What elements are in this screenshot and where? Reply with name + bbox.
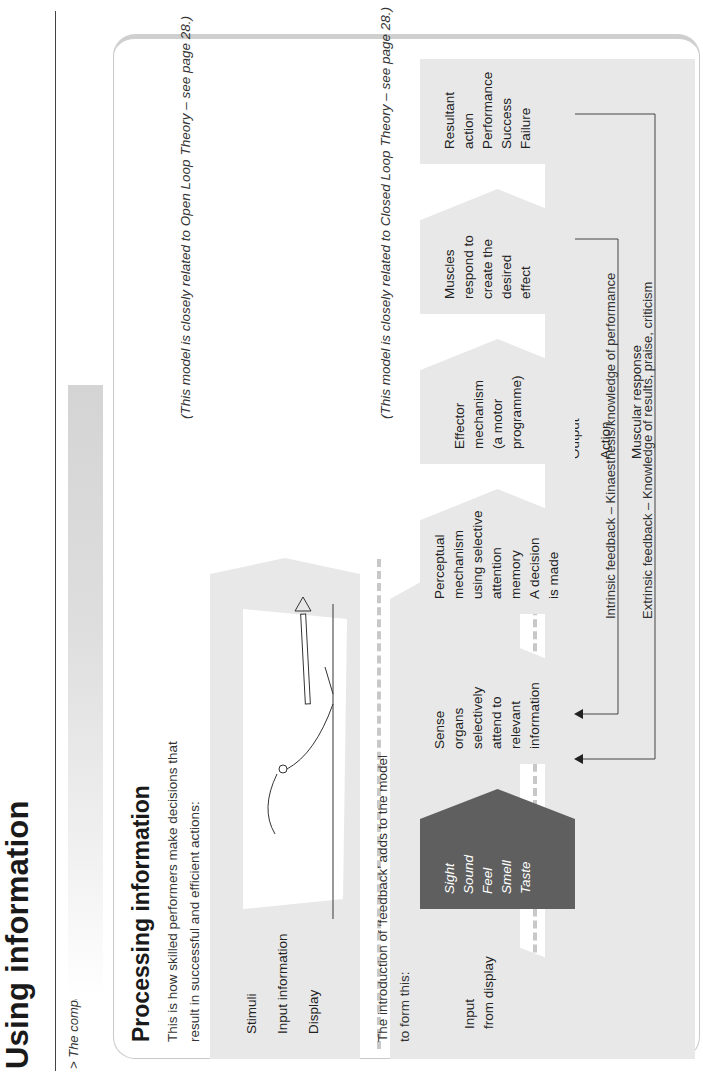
intrinsic-feedback-label: Intrinsic feedback – Kinaesthesis/knowle… bbox=[603, 273, 618, 619]
extrinsic-feedback-label: Extrinsic feedback – Knowledge of result… bbox=[640, 282, 655, 619]
feedback-loop-lines bbox=[0, 0, 703, 1089]
textbook-page: Using information > The computer brain. … bbox=[0, 0, 703, 1089]
